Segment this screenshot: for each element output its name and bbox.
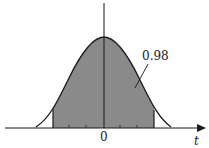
t-distribution-diagram: 0.98 0 t	[0, 0, 209, 148]
arrow-icon	[197, 124, 206, 132]
t-axis-label: t	[194, 134, 199, 148]
area-label: 0.98	[142, 49, 169, 63]
origin-label: 0	[100, 130, 108, 144]
